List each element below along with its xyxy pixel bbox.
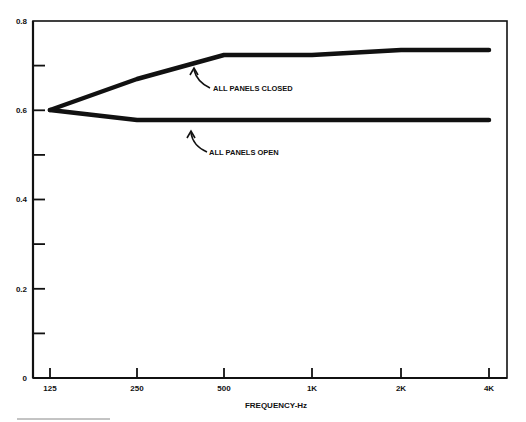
series-all-panels-closed [50, 50, 489, 110]
x-tick-label: 4K [484, 384, 494, 393]
y-tick-labels: 0 0.2 0.4 0.6 0.8 [16, 17, 28, 383]
chart-canvas: 0 0.2 0.4 0.6 0.8 125 250 500 1K 2K 4K F… [0, 0, 526, 422]
y-ticks [33, 66, 45, 334]
x-tick-label: 1K [307, 384, 317, 393]
x-tick-labels: 125 250 500 1K 2K 4K [43, 384, 494, 393]
y-tick-label: 0 [23, 374, 28, 383]
plot-frame [33, 21, 507, 378]
x-tick-label: 2K [396, 384, 406, 393]
x-axis-title: FREQUENCY-Hz [245, 401, 307, 410]
x-tick-label: 250 [130, 384, 144, 393]
x-tick-label: 500 [217, 384, 231, 393]
y-tick-label: 0.4 [16, 195, 28, 204]
annotation-all-panels-closed: ALL PANELS CLOSED [213, 84, 293, 93]
y-tick-label: 0.6 [16, 106, 28, 115]
y-tick-label: 0.8 [16, 17, 28, 26]
arrow-icon-open [187, 131, 207, 152]
x-tick-label: 125 [43, 384, 57, 393]
arrow-icon-closed [190, 68, 210, 88]
annotation-all-panels-open: ALL PANELS OPEN [209, 148, 279, 157]
x-ticks [50, 368, 489, 378]
series-all-panels-open [50, 110, 489, 120]
y-tick-label: 0.2 [16, 285, 28, 294]
